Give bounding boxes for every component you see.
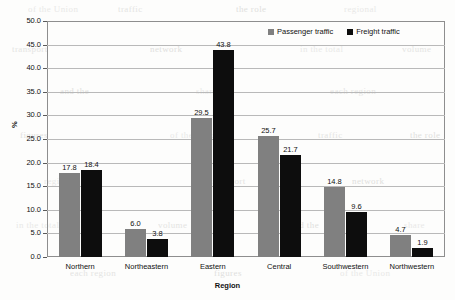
x-axis-tick-label: Eastern xyxy=(180,262,246,271)
y-axis-tick-label: 50.0 xyxy=(14,16,41,25)
gridline xyxy=(47,115,445,116)
bar-value-label: 14.8 xyxy=(318,177,351,186)
bar-chart: 50.045.040.035.030.025.020.015.010.05.00… xyxy=(0,0,455,300)
y-axis-tick-mark xyxy=(43,68,47,69)
legend-item-freight-traffic[interactable]: Freight traffic xyxy=(347,27,400,36)
bar-value-label: 3.8 xyxy=(141,229,174,238)
bar-value-label: 1.9 xyxy=(406,238,439,247)
bar-value-label: 21.7 xyxy=(274,145,307,154)
y-axis-tick-label: 35.0 xyxy=(14,87,41,96)
y-axis-tick-label: 0.0 xyxy=(14,252,41,261)
y-axis-tick-label: 25.0 xyxy=(14,134,41,143)
legend-label-passenger: Passenger traffic xyxy=(277,27,333,36)
y-axis-tick-mark xyxy=(43,233,47,234)
bar-value-label: 9.6 xyxy=(340,202,373,211)
y-axis-tick-mark xyxy=(43,163,47,164)
legend-item-passenger-traffic[interactable]: Passenger traffic xyxy=(268,27,333,36)
x-axis-tick-label: Northern xyxy=(47,262,113,271)
x-axis-tick-label: Southwestern xyxy=(312,262,378,271)
bar-freight-northern[interactable] xyxy=(81,170,102,257)
gridline xyxy=(47,139,445,140)
y-axis-tick-mark xyxy=(43,45,47,46)
y-axis-title: % xyxy=(10,121,19,128)
x-axis-tick-label: Central xyxy=(246,262,312,271)
bar-value-label: 6.0 xyxy=(119,219,152,228)
bar-value-label: 25.7 xyxy=(252,126,285,135)
bar-passenger-central[interactable] xyxy=(258,136,279,257)
bar-value-label: 4.7 xyxy=(384,225,417,234)
bar-freight-northeastern[interactable] xyxy=(147,239,168,257)
bar-passenger-eastern[interactable] xyxy=(191,118,212,257)
bar-value-label: 43.8 xyxy=(207,40,240,49)
bar-value-label: 18.4 xyxy=(75,160,108,169)
gridline xyxy=(47,45,445,46)
legend-label-freight: Freight traffic xyxy=(356,27,400,36)
x-axis-title: Region xyxy=(0,281,455,290)
bar-freight-southwestern[interactable] xyxy=(346,212,367,257)
gridline xyxy=(47,210,445,211)
x-axis-tick-label: Northeastern xyxy=(113,262,179,271)
bar-freight-central[interactable] xyxy=(280,155,301,257)
bar-passenger-southwestern[interactable] xyxy=(324,187,345,257)
x-axis-tick-label: Northwestern xyxy=(379,262,445,271)
y-axis-tick-mark xyxy=(43,210,47,211)
y-axis-tick-mark xyxy=(43,92,47,93)
y-axis-tick-label: 20.0 xyxy=(14,158,41,167)
gridline xyxy=(47,68,445,69)
legend-swatch-passenger-icon xyxy=(268,29,274,35)
y-axis-tick-label: 30.0 xyxy=(14,110,41,119)
bar-freight-northwestern[interactable] xyxy=(412,248,433,257)
bar-freight-eastern[interactable] xyxy=(213,50,234,257)
chart-legend: Passenger traffic Freight traffic xyxy=(268,27,400,36)
y-axis-tick-label: 10.0 xyxy=(14,205,41,214)
gridline xyxy=(47,92,445,93)
y-axis-tick-mark xyxy=(43,21,47,22)
y-axis-tick-mark xyxy=(43,186,47,187)
legend-swatch-freight-icon xyxy=(347,29,353,35)
y-axis-tick-label: 45.0 xyxy=(14,40,41,49)
y-axis-tick-mark xyxy=(43,257,47,258)
y-axis-tick-mark xyxy=(43,115,47,116)
bar-passenger-northern[interactable] xyxy=(59,173,80,257)
y-axis-tick-label: 5.0 xyxy=(14,228,41,237)
y-axis-tick-mark xyxy=(43,139,47,140)
gridline xyxy=(47,186,445,187)
y-axis-tick-label: 15.0 xyxy=(14,181,41,190)
y-axis-tick-label: 40.0 xyxy=(14,63,41,72)
